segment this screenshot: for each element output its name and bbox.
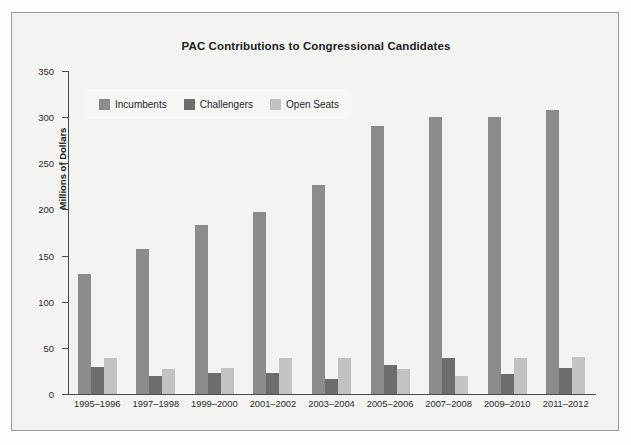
bar-open-seats <box>162 369 175 394</box>
bar-group <box>78 71 117 394</box>
chart-legend: IncumbentsChallengersOpen Seats <box>87 89 351 119</box>
x-axis-tick-label: 2009–2010 <box>484 399 531 409</box>
bar-incumbents <box>488 117 501 394</box>
bar-group <box>312 71 351 394</box>
legend-label: Incumbents <box>115 99 167 110</box>
bar-incumbents <box>253 212 266 394</box>
y-axis-tick <box>62 394 68 395</box>
figure-frame: PAC Contributions to Congressional Candi… <box>11 12 619 431</box>
screenshot-root: PAC Contributions to Congressional Candi… <box>0 0 631 445</box>
x-axis-line <box>68 394 596 395</box>
chart-title: PAC Contributions to Congressional Candi… <box>12 40 620 52</box>
legend-label: Open Seats <box>286 99 339 110</box>
y-axis-tick-label: 150 <box>12 250 54 261</box>
bar-group <box>429 71 468 394</box>
y-axis-title: Millions of Dollars <box>57 99 68 239</box>
y-axis-tick-label: 350 <box>12 66 54 77</box>
bar-open-seats <box>397 369 410 394</box>
bar-challengers <box>442 358 455 394</box>
bar-challengers <box>559 368 572 394</box>
bar-incumbents <box>371 126 384 394</box>
bar-group <box>371 71 410 394</box>
plot-area <box>68 71 595 394</box>
bar-challengers <box>149 376 162 394</box>
bar-incumbents <box>195 225 208 394</box>
x-axis-tick-label: 2005–2006 <box>367 399 414 409</box>
y-axis-tick-label: 300 <box>12 112 54 123</box>
bar-group <box>195 71 234 394</box>
bar-challengers <box>91 367 104 394</box>
bar-challengers <box>266 373 279 394</box>
x-axis-tick-label: 2011–2012 <box>543 399 589 409</box>
y-axis-tick-label: 100 <box>12 296 54 307</box>
bar-challengers <box>325 379 338 394</box>
bar-group <box>253 71 292 394</box>
bar-group <box>488 71 527 394</box>
bar-open-seats <box>104 358 117 394</box>
x-axis-tick-label: 2003–2004 <box>308 399 355 409</box>
legend-swatch-icon <box>270 99 281 110</box>
bar-open-seats <box>572 357 585 394</box>
bar-challengers <box>501 374 514 394</box>
bar-incumbents <box>546 110 559 394</box>
bar-challengers <box>208 373 221 394</box>
y-axis-tick-label: 0 <box>12 389 54 400</box>
legend-item[interactable]: Open Seats <box>270 99 339 110</box>
legend-swatch-icon <box>184 99 195 110</box>
legend-swatch-icon <box>99 99 110 110</box>
bar-incumbents <box>312 185 325 394</box>
x-axis-tick-label: 2001–2002 <box>250 399 297 409</box>
bar-incumbents <box>136 249 149 394</box>
x-axis-tick-label: 1995–1996 <box>74 399 121 409</box>
bar-open-seats <box>455 376 468 394</box>
x-axis-tick-label: 2007–2008 <box>425 399 472 409</box>
x-axis-tick-label: 1999–2000 <box>191 399 238 409</box>
bar-open-seats <box>221 368 234 394</box>
bar-challengers <box>384 365 397 394</box>
bar-incumbents <box>429 117 442 394</box>
legend-label: Challengers <box>200 99 253 110</box>
y-axis-tick-label: 250 <box>12 158 54 169</box>
bar-open-seats <box>338 358 351 394</box>
x-axis-tick-label: 1997–1998 <box>133 399 180 409</box>
bar-chart: PAC Contributions to Congressional Candi… <box>12 13 620 432</box>
legend-item[interactable]: Incumbents <box>99 99 167 110</box>
bar-group <box>546 71 585 394</box>
y-axis-tick-label: 200 <box>12 204 54 215</box>
bar-open-seats <box>279 358 292 394</box>
bar-group <box>136 71 175 394</box>
y-axis-tick-label: 50 <box>12 342 54 353</box>
bar-incumbents <box>78 274 91 394</box>
bar-open-seats <box>514 358 527 394</box>
legend-item[interactable]: Challengers <box>184 99 253 110</box>
